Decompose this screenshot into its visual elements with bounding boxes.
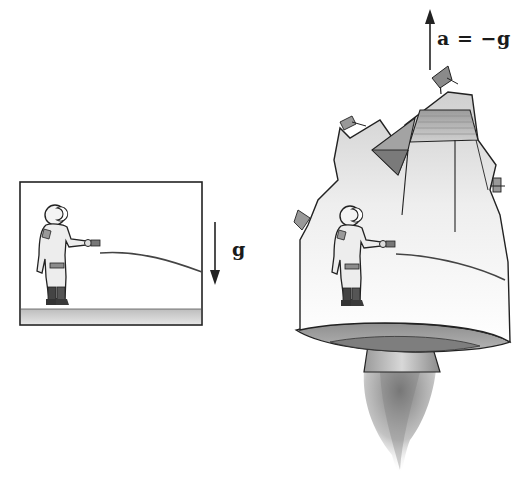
acceleration-arrow-icon (425, 9, 435, 70)
gravity-arrow-icon (210, 222, 220, 285)
acceleration-label: a = −g (437, 27, 511, 49)
ground (21, 309, 201, 324)
gravity-label: g (232, 238, 245, 260)
equivalence-principle-diagram: g a = −g (0, 0, 526, 496)
rocket-panel (294, 9, 510, 473)
antenna-dish-icon (432, 66, 458, 94)
exhaust-plume (364, 370, 436, 473)
earth-panel (20, 182, 220, 325)
thruster-left-top-icon (340, 116, 366, 130)
